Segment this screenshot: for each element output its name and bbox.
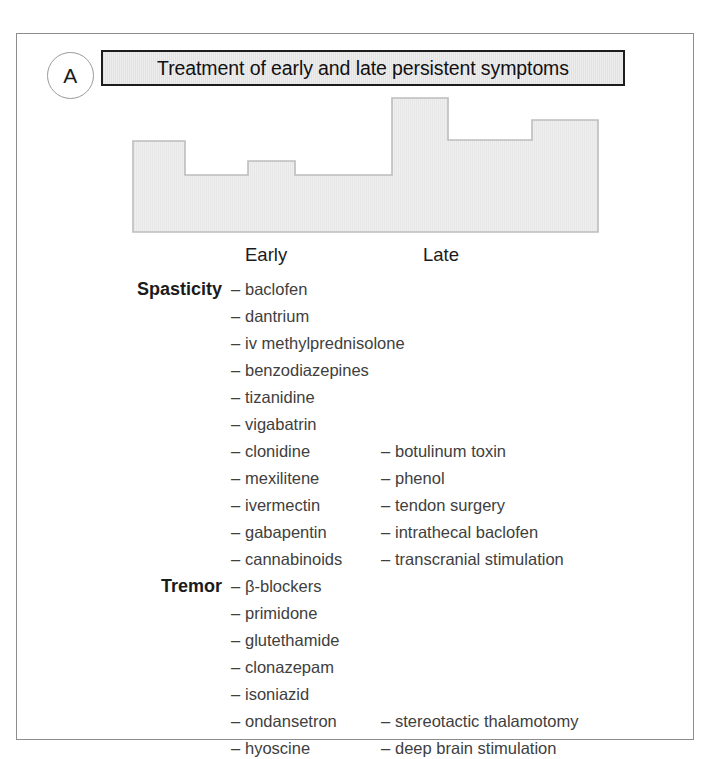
list-dash: – [381, 708, 395, 735]
cell-early: –cannabinoids [231, 546, 342, 573]
stepped-bar-silhouette-svg [132, 94, 600, 236]
table-row: –primidone [0, 600, 711, 627]
cell-early: –gabapentin [231, 519, 327, 546]
table-row: –vigabatrin [0, 411, 711, 438]
table-row: –clonazepam [0, 654, 711, 681]
cell-late: –deep brain stimulation [381, 735, 556, 759]
cell-early-text: iv methylprednisolone [245, 334, 405, 352]
figure-title-text: Treatment of early and late persistent s… [157, 57, 569, 80]
panel-letter-badge: A [47, 52, 94, 99]
table-row: –benzodiazepines [0, 357, 711, 384]
cell-late: –stereotactic thalamotomy [381, 708, 578, 735]
cell-late: –botulinum toxin [381, 438, 506, 465]
cell-early-text: gabapentin [245, 523, 327, 541]
cell-early: –clonazepam [231, 654, 334, 681]
cell-early-text: hyoscine [245, 739, 310, 757]
cell-early-text: primidone [245, 604, 317, 622]
cell-late: –intrathecal baclofen [381, 519, 538, 546]
cell-early: –primidone [231, 600, 317, 627]
cell-early: –ivermectin [231, 492, 320, 519]
cell-early-text: clonidine [245, 442, 310, 460]
list-dash: – [231, 492, 245, 519]
cell-late-text: tendon surgery [395, 496, 505, 514]
cell-late-text: stereotactic thalamotomy [395, 712, 578, 730]
row-section-label: Spasticity [0, 276, 222, 303]
list-dash: – [231, 681, 245, 708]
cell-early: –mexilitene [231, 465, 319, 492]
cell-early-text: isoniazid [245, 685, 309, 703]
cell-early: –tizanidine [231, 384, 315, 411]
cell-early: –baclofen [231, 276, 307, 303]
table-row: –ivermectin–tendon surgery [0, 492, 711, 519]
stepped-bar-path [133, 98, 598, 232]
list-dash: – [231, 276, 245, 303]
list-dash: – [231, 303, 245, 330]
list-dash: – [231, 654, 245, 681]
list-dash: – [231, 411, 245, 438]
list-dash: – [231, 735, 245, 759]
cell-late: –tendon surgery [381, 492, 505, 519]
cell-early: –hyoscine [231, 735, 310, 759]
cell-early: –ondansetron [231, 708, 337, 735]
stepped-bar-silhouette [132, 94, 600, 236]
cell-late: –phenol [381, 465, 445, 492]
cell-early-text: benzodiazepines [245, 361, 369, 379]
cell-early-text: vigabatrin [245, 415, 317, 433]
list-dash: – [231, 330, 245, 357]
cell-early: –isoniazid [231, 681, 309, 708]
cell-early: –benzodiazepines [231, 357, 369, 384]
list-dash: – [381, 735, 395, 759]
figure-panel: A Treatment of early and late persistent… [0, 0, 711, 759]
cell-early-text: baclofen [245, 280, 307, 298]
row-section-label: Tremor [0, 573, 222, 600]
table-row: –iv methylprednisolone [0, 330, 711, 357]
list-dash: – [381, 492, 395, 519]
cell-late-text: deep brain stimulation [395, 739, 556, 757]
table-row: –tizanidine [0, 384, 711, 411]
list-dash: – [231, 708, 245, 735]
column-header-late: Late [423, 244, 459, 266]
table-row: –clonidine–botulinum toxin [0, 438, 711, 465]
cell-early-text: dantrium [245, 307, 309, 325]
list-dash: – [231, 600, 245, 627]
list-dash: – [381, 465, 395, 492]
figure-title-box: Treatment of early and late persistent s… [101, 50, 625, 86]
table-row: –glutethamide [0, 627, 711, 654]
cell-early: –dantrium [231, 303, 309, 330]
list-dash: – [231, 573, 245, 600]
list-dash: – [231, 519, 245, 546]
cell-early-text: mexilitene [245, 469, 319, 487]
cell-early-text: ondansetron [245, 712, 337, 730]
column-header-early: Early [245, 244, 287, 266]
list-dash: – [381, 519, 395, 546]
cell-early-text: clonazepam [245, 658, 334, 676]
list-dash: – [231, 438, 245, 465]
list-dash: – [381, 546, 395, 573]
table-row: –hyoscine–deep brain stimulation [0, 735, 711, 759]
table-row: –ondansetron–stereotactic thalamotomy [0, 708, 711, 735]
cell-early-text: tizanidine [245, 388, 315, 406]
cell-early-text: β-blockers [245, 577, 321, 595]
list-dash: – [231, 357, 245, 384]
table-row: Tremor–β-blockers [0, 573, 711, 600]
cell-late-text: phenol [395, 469, 445, 487]
cell-early: –β-blockers [231, 573, 321, 600]
table-row: –cannabinoids–transcranial stimulation [0, 546, 711, 573]
table-row: –dantrium [0, 303, 711, 330]
column-headers: Early Late [0, 244, 711, 272]
panel-letter-text: A [63, 64, 78, 88]
cell-late-text: intrathecal baclofen [395, 523, 538, 541]
cell-early: –glutethamide [231, 627, 339, 654]
table-row: –mexilitene–phenol [0, 465, 711, 492]
cell-late-text: transcranial stimulation [395, 550, 564, 568]
cell-early-text: glutethamide [245, 631, 339, 649]
list-dash: – [231, 384, 245, 411]
cell-early-text: cannabinoids [245, 550, 342, 568]
list-dash: – [231, 627, 245, 654]
cell-early: –iv methylprednisolone [231, 330, 405, 357]
list-dash: – [231, 546, 245, 573]
cell-early-text: ivermectin [245, 496, 320, 514]
table-row: –gabapentin–intrathecal baclofen [0, 519, 711, 546]
cell-early: –clonidine [231, 438, 310, 465]
list-dash: – [381, 438, 395, 465]
